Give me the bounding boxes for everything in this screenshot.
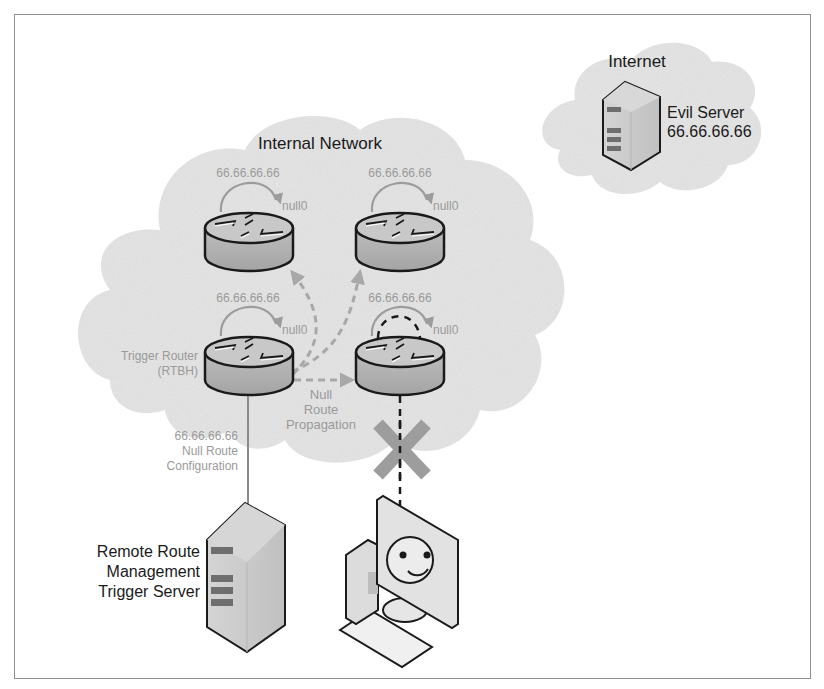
router-bottom-right-icon <box>356 337 444 395</box>
evil-server-ip: 66.66.66.66 <box>667 123 752 140</box>
router-top-right-null: null0 <box>433 199 459 213</box>
internet-label: Internet <box>608 52 666 71</box>
router-top-left-icon <box>205 213 293 271</box>
internal-network-label: Internal Network <box>258 134 382 153</box>
trigger-router-icon <box>205 337 293 395</box>
rtbh-network-diagram: Internet Evil Server 66.66.66.66 Interna… <box>0 0 824 689</box>
config-label-line3: Configuration <box>167 459 238 473</box>
config-label-line1: 66.66.66.66 <box>175 429 239 443</box>
router-bottom-right-null: null0 <box>433 323 459 337</box>
router-top-left-null: null0 <box>282 199 308 213</box>
router-top-right-icon <box>356 213 444 271</box>
trigger-server-label-line3: Trigger Server <box>98 583 200 600</box>
trigger-router-ip: 66.66.66.66 <box>216 291 280 305</box>
evil-server-icon <box>603 82 660 170</box>
propagation-label-line2: Route <box>304 402 339 417</box>
client-workstation-icon <box>340 496 458 667</box>
router-bottom-right-ip: 66.66.66.66 <box>368 291 432 305</box>
trigger-router-null: null0 <box>282 323 308 337</box>
trigger-server-label-line2: Management <box>107 563 201 580</box>
trigger-server-label-line1: Remote Route <box>97 543 200 560</box>
trigger-router-label-line2: (RTBH) <box>158 364 198 378</box>
trigger-server-icon <box>207 503 285 652</box>
evil-server-name: Evil Server <box>667 104 745 121</box>
trigger-router-label-line1: Trigger Router <box>121 349 198 363</box>
router-top-left-ip: 66.66.66.66 <box>216 166 280 180</box>
propagation-label-line3: Propagation <box>286 417 356 432</box>
config-label-line2: Null Route <box>182 444 238 458</box>
router-top-right-ip: 66.66.66.66 <box>368 166 432 180</box>
propagation-label-line1: Null <box>310 387 333 402</box>
